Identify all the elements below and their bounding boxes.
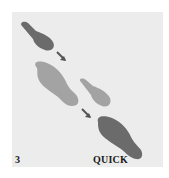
- footprint-light-small: [80, 79, 111, 107]
- footprint-diagram: [0, 0, 169, 178]
- footprint-dark-large: [98, 116, 143, 159]
- arrow-down-right-icon: [82, 109, 91, 118]
- footprint-light-large: [35, 62, 78, 106]
- tempo-label: QUICK: [93, 155, 128, 165]
- arrow-down-right-icon: [57, 52, 66, 61]
- footprint-dark-top: [21, 22, 54, 51]
- step-number: 3: [15, 155, 20, 165]
